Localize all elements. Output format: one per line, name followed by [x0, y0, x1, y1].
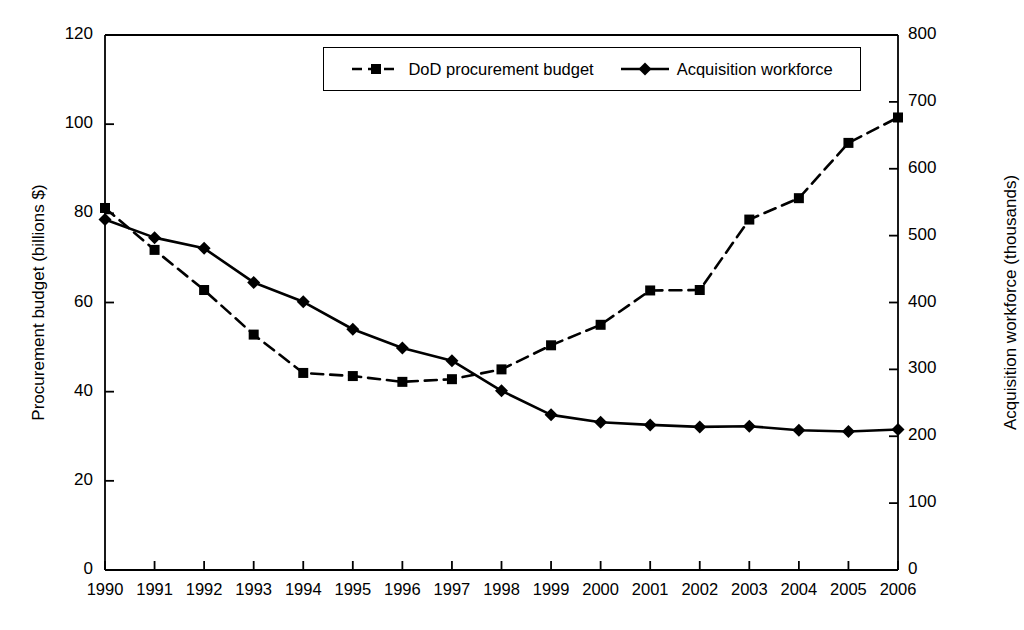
- data-point-square: [546, 340, 556, 350]
- legend-square-marker-icon: [351, 60, 401, 78]
- data-point-square: [100, 203, 110, 213]
- data-point-diamond: [842, 425, 855, 438]
- data-point-diamond: [297, 295, 310, 308]
- series-1: [100, 112, 903, 386]
- legend-diamond-marker-icon: [620, 60, 670, 78]
- data-point-diamond: [892, 423, 905, 436]
- data-point-diamond: [148, 231, 161, 244]
- data-point-diamond: [545, 408, 558, 421]
- data-point-square: [893, 112, 903, 122]
- data-point-square: [596, 320, 606, 330]
- data-point-square: [497, 364, 507, 374]
- data-point-diamond: [743, 420, 756, 433]
- data-point-diamond: [693, 420, 706, 433]
- data-point-square: [298, 368, 308, 378]
- legend-entry: Acquisition workforce: [620, 60, 833, 79]
- data-point-diamond: [495, 384, 508, 397]
- data-point-diamond: [99, 213, 112, 226]
- data-point-square: [447, 374, 457, 384]
- legend-label: Acquisition workforce: [677, 60, 833, 79]
- data-point-square: [794, 193, 804, 203]
- data-point-square: [348, 371, 358, 381]
- data-point-square: [695, 285, 705, 295]
- data-point-square: [843, 138, 853, 148]
- data-point-diamond: [792, 424, 805, 437]
- legend-marker: [638, 63, 651, 76]
- data-point-square: [645, 285, 655, 295]
- data-point-square: [249, 330, 259, 340]
- series-line-dashed: [105, 117, 898, 381]
- data-point-square: [744, 215, 754, 225]
- series-2: [99, 213, 905, 438]
- data-point-square: [150, 245, 160, 255]
- legend-marker: [371, 64, 381, 74]
- legend-entry: DoD procurement budget: [351, 60, 593, 79]
- data-point-diamond: [644, 418, 657, 431]
- data-point-diamond: [594, 416, 607, 429]
- chart-legend: DoD procurement budgetAcquisition workfo…: [323, 47, 861, 91]
- data-point-square: [397, 377, 407, 387]
- series-line-solid: [105, 220, 898, 432]
- legend-label: DoD procurement budget: [408, 60, 593, 79]
- data-point-diamond: [396, 341, 409, 354]
- data-point-diamond: [346, 323, 359, 336]
- data-point-square: [199, 285, 209, 295]
- data-point-diamond: [445, 354, 458, 367]
